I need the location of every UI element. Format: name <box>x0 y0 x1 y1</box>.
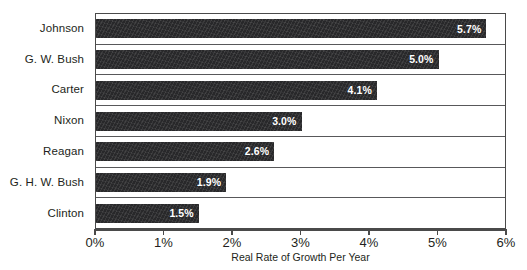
x-axis-tick-label: 5% <box>428 236 447 249</box>
bar-value-label: 4.1% <box>348 85 372 96</box>
x-axis-tick-label: 6% <box>497 236 516 249</box>
chart-row: 1.9% <box>96 168 505 199</box>
bar: 5.0% <box>96 50 439 69</box>
bar-value-label: 2.6% <box>245 146 269 157</box>
chart-row: 1.5% <box>96 198 505 228</box>
x-axis-tick-label: 0% <box>86 236 105 249</box>
bar-value-label: 5.0% <box>409 54 433 65</box>
category-label: Reagan <box>0 136 90 167</box>
chart-row: 2.6% <box>96 137 505 168</box>
x-axis-title: Real Rate of Growth Per Year <box>95 252 506 263</box>
bar: 4.1% <box>96 81 377 100</box>
category-label: Clinton <box>0 198 90 229</box>
bar-value-label: 3.0% <box>272 116 296 127</box>
bar: 5.7% <box>96 19 486 38</box>
plot-area: 5.7% 5.0% 4.1% 3.0% 2.6% <box>95 13 506 229</box>
x-axis-tick-label: 3% <box>291 236 310 249</box>
category-axis: Johnson G. W. Bush Carter Nixon Reagan G… <box>0 13 90 229</box>
bar: 2.6% <box>96 142 274 161</box>
chart-row: 5.7% <box>96 14 505 45</box>
category-label: G. H. W. Bush <box>0 167 90 198</box>
category-label: Johnson <box>0 13 90 44</box>
chart-row: 4.1% <box>96 75 505 106</box>
x-axis-tick-label: 1% <box>154 236 173 249</box>
bar-value-label: 1.5% <box>169 208 193 219</box>
category-label: Nixon <box>0 106 90 137</box>
plot-rows: 5.7% 5.0% 4.1% 3.0% 2.6% <box>96 14 505 228</box>
bar-value-label: 1.9% <box>197 177 221 188</box>
chart-row: 5.0% <box>96 45 505 76</box>
category-label: Carter <box>0 75 90 106</box>
x-axis-tick-label: 4% <box>360 236 379 249</box>
bar: 1.5% <box>96 204 199 223</box>
category-label: G. W. Bush <box>0 44 90 75</box>
bar: 3.0% <box>96 112 302 131</box>
chart-row: 3.0% <box>96 106 505 137</box>
x-axis-tick-label: 2% <box>223 236 242 249</box>
bar-chart: Johnson G. W. Bush Carter Nixon Reagan G… <box>0 0 527 270</box>
bar-value-label: 5.7% <box>457 24 481 35</box>
bar: 1.9% <box>96 173 226 192</box>
x-axis: 0%1%2%3%4%5%6% Real Rate of Growth Per Y… <box>95 229 506 270</box>
